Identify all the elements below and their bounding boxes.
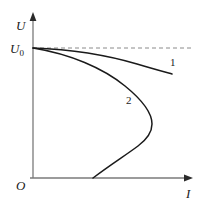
- u0-label-subscript: 0: [20, 48, 25, 58]
- iv-characteristic-figure: U U 0 O I 1 2: [0, 0, 207, 214]
- origin-label: O: [16, 178, 26, 193]
- x-axis-label: I: [185, 186, 191, 201]
- y-axis-label: U: [16, 18, 27, 33]
- figure-background: [0, 0, 207, 214]
- curve-2-label: 2: [126, 94, 132, 106]
- curve-1-label: 1: [170, 56, 176, 68]
